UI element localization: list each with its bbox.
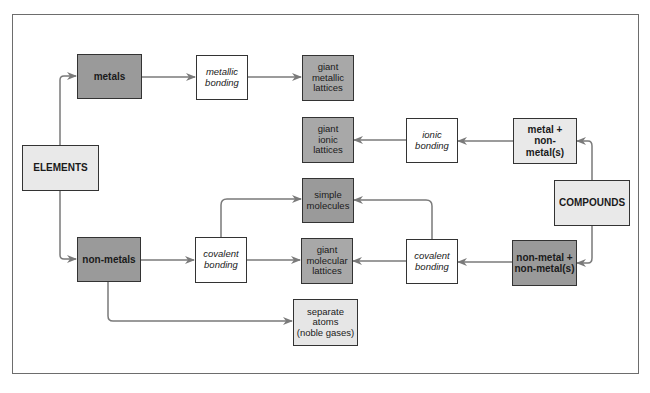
arrow-covalent-right-to-simple-molecules bbox=[354, 200, 432, 239]
node-giant-molecular-lattices: giantmolecularlattices bbox=[301, 238, 353, 284]
arrow-covalent-to-simple-molecules bbox=[221, 199, 301, 237]
node-metal-plus-nonmetal: metal +non-metal(s) bbox=[513, 118, 577, 164]
node-elements: ELEMENTS bbox=[22, 145, 99, 191]
node-metals: metals bbox=[77, 54, 142, 99]
node-simple-molecules: simplemolecules bbox=[302, 178, 354, 223]
node-nonmetal-plus-nonmetal: non-metal +non-metal(s) bbox=[512, 240, 577, 286]
node-covalent-bonding-left: covalentbonding bbox=[195, 237, 247, 283]
arrow-elements-to-nonmetals bbox=[60, 190, 76, 259]
node-separate-atoms: separateatoms(noble gases) bbox=[293, 299, 358, 346]
node-giant-metallic-lattices: giantmetalliclattices bbox=[302, 55, 354, 101]
arrow-nonmetals-to-separate-atoms bbox=[108, 282, 292, 321]
node-metallic-bonding: metallicbonding bbox=[196, 55, 248, 100]
node-ionic-bonding: ionicbonding bbox=[406, 118, 458, 163]
arrow-elements-to-metals bbox=[60, 76, 76, 145]
node-covalent-bonding-right: covalentbonding bbox=[406, 239, 458, 284]
arrow-compounds-to-metal-nonmetal bbox=[577, 141, 592, 180]
node-non-metals: non-metals bbox=[77, 237, 141, 282]
node-compounds: COMPOUNDS bbox=[554, 180, 630, 226]
arrow-compounds-to-nonmetal-nonmetal bbox=[577, 225, 592, 263]
node-giant-ionic-lattices: giantioniclattices bbox=[302, 117, 354, 163]
